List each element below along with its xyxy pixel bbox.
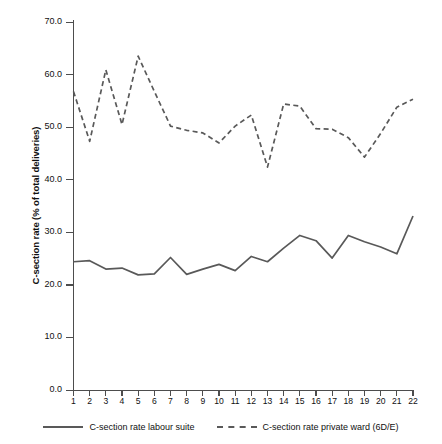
y-axis-line — [73, 20, 74, 391]
y-axis-tick — [66, 127, 73, 128]
y-axis-tick-label: 20.0 — [20, 279, 62, 289]
y-axis-tick-label: 40.0 — [20, 174, 62, 184]
y-axis-tick — [66, 337, 73, 338]
y-axis-tick-label: 30.0 — [20, 226, 62, 236]
y-axis-tick — [66, 74, 73, 75]
legend-label: C-section rate private ward (6D/E) — [263, 422, 399, 432]
y-axis-tick-label: 0.0 — [20, 384, 62, 394]
plot-series-layer — [0, 0, 442, 444]
y-axis-tick-label: 70.0 — [20, 16, 62, 26]
y-axis-tick-label: 50.0 — [20, 121, 62, 131]
y-axis-tick — [66, 232, 73, 233]
y-axis-tick — [66, 284, 73, 285]
y-axis-tick-label: 60.0 — [20, 69, 62, 79]
y-axis-title: C-section rate (% of total deliveries) — [30, 76, 41, 336]
legend-label: C-section rate labour suite — [89, 422, 194, 432]
y-axis-tick — [66, 22, 73, 23]
chart-figure: C-section rate (% of total deliveries) 0… — [0, 0, 442, 444]
x-axis-tick-label: 22 — [402, 396, 424, 406]
series-line-1 — [74, 216, 414, 275]
y-axis-tick-label: 10.0 — [20, 331, 62, 341]
series-line-2 — [74, 56, 414, 167]
x-axis-line — [66, 390, 414, 391]
legend-entry-2[interactable]: C-section rate private ward (6D/E) — [217, 422, 399, 432]
legend-swatch-solid-icon — [43, 426, 83, 428]
chart-legend: C-section rate labour suiteC-section rat… — [0, 418, 442, 436]
y-axis-tick — [66, 179, 73, 180]
legend-swatch-dashed-icon — [217, 426, 257, 428]
legend-entry-1[interactable]: C-section rate labour suite — [43, 422, 194, 432]
